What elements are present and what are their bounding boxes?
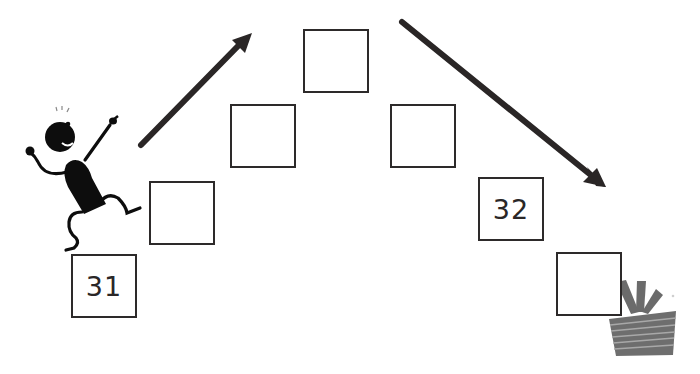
sequence-box-7[interactable] <box>556 252 622 316</box>
sequence-box-1[interactable]: 31 <box>71 254 137 318</box>
sequence-box-2[interactable] <box>149 181 215 245</box>
box-value: 32 <box>493 194 529 225</box>
sequence-box-4[interactable] <box>303 29 369 93</box>
sequence-box-5[interactable] <box>390 104 456 168</box>
sequence-box-6[interactable]: 32 <box>478 177 544 241</box>
box-value: 31 <box>86 271 122 302</box>
stick-figure-climbing-icon <box>26 106 141 250</box>
sequence-box-3[interactable] <box>230 104 296 168</box>
